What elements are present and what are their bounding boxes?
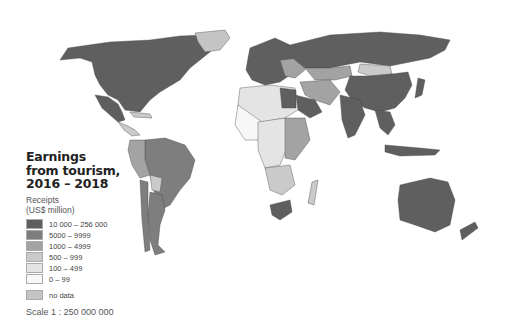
legend-title-line: from tourism, [26,164,176,178]
region-new-zealand [460,222,478,240]
region-east-africa [285,118,310,160]
region-north-america [60,35,218,112]
legend-item-no-data: no data [26,290,176,301]
legend-title: Earnings from tourism, 2016 – 2018 [26,150,176,191]
legend-label: 0 – 99 [49,275,70,284]
region-russia [290,32,450,68]
legend-label: 10 000 – 256 000 [49,220,107,229]
legend-subtitle-line: Receipts [26,195,176,205]
region-madagascar [308,180,318,205]
legend-swatch [26,263,43,273]
legend-label: no data [49,291,74,300]
legend-swatch [26,219,43,229]
region-kazakhstan [305,66,352,80]
legend-subtitle: Receipts (US$ million) [26,195,176,215]
legend: Earnings from tourism, 2016 – 2018 Recei… [26,150,176,317]
legend-item: 0 – 99 [26,274,176,285]
region-australia [398,178,455,232]
legend-label: 100 – 499 [49,264,82,273]
region-central-america [118,122,140,136]
legend-swatch [26,252,43,262]
legend-swatch [26,230,43,240]
region-south-africa [270,200,292,220]
region-mongolia [358,64,392,76]
region-japan [415,78,425,98]
legend-item: 10 000 – 256 000 [26,219,176,230]
legend-label: 5000 – 9999 [49,231,91,240]
region-indonesia [385,145,440,156]
legend-swatch [26,241,43,251]
region-southeast-asia [375,110,395,135]
region-southern-africa [265,165,295,195]
legend-swatch [26,290,43,300]
legend-swatch [26,274,43,284]
legend-title-line: Earnings [26,150,176,164]
region-caribbean [130,112,152,118]
legend-items: 10 000 – 256 000 5000 – 9999 1000 – 4999… [26,219,176,301]
legend-subtitle-line: (US$ million) [26,205,176,215]
legend-label: 500 – 999 [49,253,82,262]
legend-item: 5000 – 9999 [26,230,176,241]
legend-item: 500 – 999 [26,252,176,263]
legend-item: 1000 – 4999 [26,241,176,252]
region-egypt [280,88,296,108]
legend-title-line: 2016 – 2018 [26,177,176,191]
legend-item: 100 – 499 [26,263,176,274]
legend-label: 1000 – 4999 [49,242,91,251]
map-scale: Scale 1 : 250 000 000 [26,307,176,317]
